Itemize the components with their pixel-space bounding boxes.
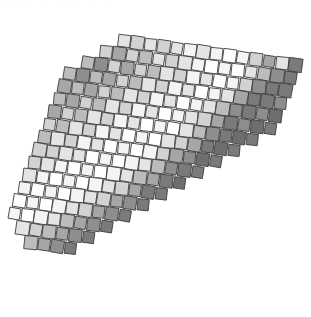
mosaic-tile — [209, 155, 222, 168]
mosaic-tile — [173, 69, 187, 83]
mosaic-tile — [18, 182, 31, 195]
mosaic-tile — [229, 104, 242, 117]
mosaic-tile — [166, 121, 180, 135]
mosaic-tile — [155, 188, 168, 201]
mosaic-tile — [165, 162, 179, 176]
mosaic-tile — [56, 227, 69, 240]
mosaic-tile — [56, 119, 70, 133]
mosaic-tile — [120, 169, 134, 183]
mosaic-tile — [221, 89, 235, 103]
mosaic-tile — [165, 54, 179, 68]
mosaic-tile — [49, 172, 63, 186]
mosaic-tile — [208, 88, 220, 100]
mosaic-tile — [21, 209, 35, 223]
mosaic-tile — [86, 218, 100, 232]
mosaic-tile — [66, 202, 79, 215]
mosaic-tile — [79, 96, 92, 109]
mosaic-tile — [131, 103, 146, 118]
mosaic-tile — [64, 134, 78, 148]
mosaic-tile — [70, 188, 85, 203]
mosaic-tile — [91, 138, 104, 151]
mosaic-tile — [68, 229, 82, 243]
mosaic-tile — [214, 141, 229, 156]
mosaic-tile — [81, 56, 95, 70]
mosaic-tile — [185, 111, 199, 125]
mosaic-tile — [112, 46, 127, 61]
mosaic-tile — [197, 112, 212, 127]
mosaic-figure — [0, 0, 311, 317]
mosaic-tile — [147, 65, 161, 79]
mosaic-tile — [257, 67, 271, 81]
mosaic-tile — [54, 160, 68, 174]
mosaic-tile — [224, 116, 239, 131]
mosaic-tile — [30, 183, 45, 198]
mosaic-tile — [140, 118, 154, 132]
mosaic-tile — [154, 120, 167, 133]
mosaic-tile — [99, 45, 112, 58]
mosaic-tile — [141, 185, 156, 200]
mosaic-tile — [195, 152, 209, 166]
mosaic-tile — [242, 105, 257, 120]
mosaic-tile — [276, 56, 290, 70]
mosaic-tile — [141, 77, 156, 92]
mosaic-tile — [87, 110, 102, 125]
mosaic-tile — [249, 52, 263, 66]
mosaic-tile — [42, 225, 57, 240]
mosaic-tile — [260, 94, 275, 109]
mosaic-tile — [63, 67, 77, 81]
mosaic-tile — [233, 90, 249, 106]
mosaic-tile — [105, 99, 121, 115]
mosaic-tile — [145, 105, 159, 119]
mosaic-tile — [136, 131, 149, 144]
mosaic-tile — [212, 74, 227, 89]
mosaic-tile — [215, 101, 231, 117]
mosaic-tile — [57, 187, 71, 201]
mosaic-tile — [182, 84, 195, 97]
mosaic-tile — [110, 195, 123, 208]
mosaic-tile — [110, 87, 124, 101]
mosaic-tile — [203, 100, 217, 114]
mosaic-tile — [159, 174, 173, 188]
mosaic-tile — [183, 43, 197, 57]
figure-root: · · · · ·· · · · — [0, 0, 311, 317]
mosaic-tile — [175, 136, 189, 150]
mosaic-tile — [67, 161, 81, 175]
mosaic-tile — [219, 129, 232, 142]
mosaic-tile — [58, 146, 73, 161]
mosaic-tile — [94, 57, 109, 72]
mosaic-tile — [149, 92, 164, 107]
mosaic-tile — [8, 207, 21, 220]
mosaic-tile — [60, 214, 75, 229]
mosaic-tile — [75, 176, 89, 190]
mosaic-tile — [105, 207, 119, 221]
mosaic-tile — [98, 86, 110, 98]
mosaic-tile — [108, 60, 121, 73]
mosaic-tile — [99, 153, 112, 166]
mosaic-tile — [82, 123, 96, 137]
mosaic-tile — [121, 128, 136, 143]
mosaic-tile — [36, 171, 49, 184]
mosaic-tile — [226, 77, 239, 90]
mosaic-tile — [50, 132, 65, 147]
mosaic-tile — [161, 134, 176, 149]
mosaic-tile — [201, 140, 214, 153]
mosaic-tile — [115, 181, 129, 195]
mosaic-tile — [76, 68, 90, 82]
mosaic-tile — [151, 159, 166, 174]
mosaic-tile — [29, 223, 43, 237]
mosaic-tile — [137, 91, 150, 104]
mosaic-tile — [210, 47, 223, 60]
mosaic-tile — [51, 199, 67, 215]
mosaic-tile — [206, 127, 220, 141]
mosaic-tile — [113, 114, 128, 129]
mosaic-tile — [119, 102, 132, 115]
mosaic-tile — [158, 107, 172, 121]
mosaic-tile — [68, 121, 83, 136]
mosaic-tile — [81, 164, 94, 177]
mosaic-tile — [250, 120, 264, 134]
mosaic-tile — [268, 109, 282, 123]
mosaic-tile — [173, 177, 186, 190]
mosaic-tile — [148, 132, 162, 146]
mosaic-tile — [48, 213, 61, 226]
mosaic-tile — [64, 242, 77, 255]
